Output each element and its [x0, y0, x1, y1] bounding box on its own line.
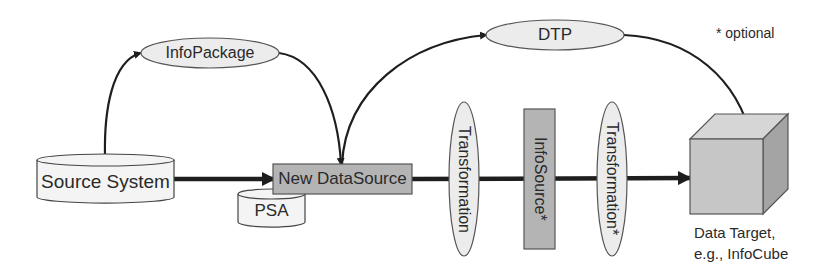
data-target-label-line1: Data Target, [694, 222, 788, 243]
edge-source-to-infopackage [105, 53, 140, 156]
transformation-1-label: Transformation [449, 104, 479, 254]
data-target-label: Data Target, e.g., InfoCube [694, 222, 788, 264]
data-target-cube [690, 114, 788, 214]
infosource-label: InfoSource* [524, 109, 555, 249]
transformation-2-label: Transformation* [597, 104, 627, 254]
infopackage-label: InfoPackage [141, 38, 279, 68]
dtp-label: DTP [486, 20, 624, 50]
edge-infopackage-to-datasource [279, 53, 341, 164]
new-datasource-label: New DataSource [273, 164, 412, 194]
source-system-label: Source System [37, 167, 174, 197]
optional-legend-note: * optional [716, 25, 774, 41]
psa-label: PSA [238, 199, 305, 223]
data-target-label-line2: e.g., InfoCube [694, 243, 788, 264]
